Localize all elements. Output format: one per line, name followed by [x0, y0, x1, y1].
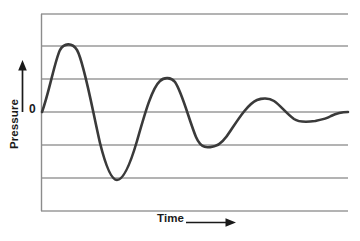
- damped-wave-chart: [0, 0, 360, 241]
- y-axis-label: Pressure: [8, 89, 20, 159]
- arrow-right-icon: [186, 218, 236, 227]
- x-axis-label: Time: [157, 212, 184, 224]
- gridlines: [41, 14, 348, 211]
- y-axis-zero-tick-label: 0: [29, 102, 36, 116]
- figure-container: Pressure 0 Time: [0, 0, 360, 241]
